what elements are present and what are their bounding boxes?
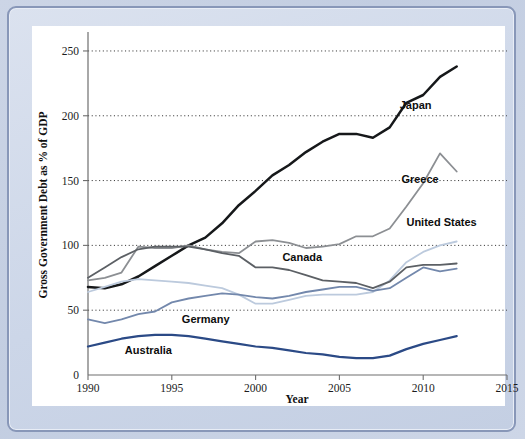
y-tick-label-250: 250 bbox=[62, 45, 80, 57]
series-label-united-states: United States bbox=[406, 216, 476, 228]
y-tick-label-100: 100 bbox=[62, 239, 80, 251]
x-tick-label-2005: 2005 bbox=[328, 382, 351, 394]
x-tick-label-1990: 1990 bbox=[77, 382, 100, 394]
series-line-germany bbox=[88, 267, 457, 323]
chart-container: JapanGreeceUnited StatesCanadaGermanyAus… bbox=[0, 0, 525, 439]
series-label-greece: Greece bbox=[401, 173, 438, 185]
screenshot-frame: JapanGreeceUnited StatesCanadaGermanyAus… bbox=[0, 0, 525, 439]
x-tick-label-1995: 1995 bbox=[160, 382, 183, 394]
line-chart: JapanGreeceUnited StatesCanadaGermanyAus… bbox=[0, 0, 525, 439]
x-tick-label-2000: 2000 bbox=[244, 382, 267, 394]
y-axis-title: Gross Government Debt as % of GDP bbox=[37, 112, 49, 299]
y-tick-label-50: 50 bbox=[68, 304, 80, 316]
axes-group bbox=[83, 32, 507, 380]
y-tick-label-150: 150 bbox=[62, 175, 80, 187]
x-axis-title: Year bbox=[286, 393, 309, 405]
series-label-australia: Australia bbox=[125, 344, 173, 356]
series-label-japan: Japan bbox=[400, 99, 432, 111]
y-tick-label-200: 200 bbox=[62, 110, 80, 122]
series-label-germany: Germany bbox=[182, 313, 231, 325]
series-labels-group: JapanGreeceUnited StatesCanadaGermanyAus… bbox=[125, 99, 477, 356]
y-tick-label-0: 0 bbox=[73, 369, 79, 381]
x-tick-label-2015: 2015 bbox=[496, 382, 519, 394]
series-label-canada: Canada bbox=[282, 251, 323, 263]
x-tick-label-2010: 2010 bbox=[412, 382, 435, 394]
